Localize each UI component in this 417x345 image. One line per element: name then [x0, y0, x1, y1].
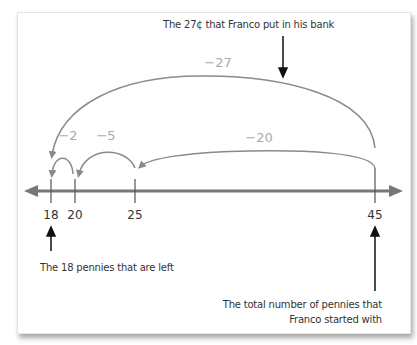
jump-arc-minus-5	[79, 152, 135, 174]
tick-marks	[51, 168, 375, 203]
jump-arc-minus-27	[52, 76, 375, 155]
jump-label-minus-27: −27	[204, 55, 231, 70]
tick-label-18: 18	[43, 208, 58, 222]
annotation-starting-total-line1: The total number of pennies that	[200, 297, 382, 312]
up-arrow-icon-right	[371, 227, 379, 236]
down-arrow-icon	[279, 68, 287, 77]
number-line-diagram: 18 20 25 45 −27 −20 −5 −2	[0, 0, 417, 345]
right-arrow-icon	[389, 185, 403, 197]
left-arrow-icon	[24, 185, 38, 197]
annotation-pennies-left: The 18 pennies that are left	[40, 260, 240, 275]
annotation-starting-total-line2: Franco started with	[200, 312, 382, 327]
jump-arc-minus-20	[141, 151, 375, 168]
number-line-axis	[24, 185, 403, 197]
jump-arc-minus-2	[52, 158, 73, 174]
annotation-starting-total: The total number of pennies that Franco …	[200, 297, 382, 327]
tick-label-25: 25	[127, 208, 142, 222]
up-arrow-icon	[47, 227, 55, 236]
jump-label-minus-5: −5	[96, 128, 115, 143]
annotation-bank-amount: The 27¢ that Franco put in his bank	[163, 17, 363, 32]
jump-label-minus-20: −20	[245, 130, 272, 145]
tick-label-20: 20	[67, 208, 82, 222]
jump-label-minus-2: −2	[58, 128, 77, 143]
tick-label-45: 45	[367, 208, 382, 222]
